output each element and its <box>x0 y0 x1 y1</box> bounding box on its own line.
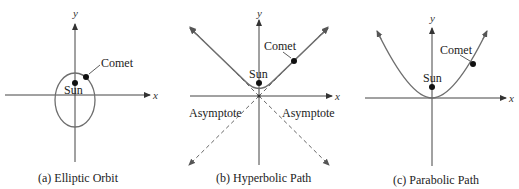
panel-elliptic-orbit: y x Sun Comet (a) Elliptic Orbit <box>5 7 158 185</box>
sun-label: Sun <box>249 67 268 81</box>
focus-dot <box>257 94 260 97</box>
hyperbola-arrow-left <box>190 28 196 34</box>
caption-hyperbolic-path: (b) Hyperbolic Path <box>216 171 311 185</box>
x-axis-label: x <box>334 90 340 102</box>
comet-leader-line <box>89 65 100 74</box>
y-axis-label: y <box>429 12 435 24</box>
caption-parabolic-path: (c) Parabolic Path <box>393 173 479 187</box>
hyperbola-arrow-right <box>322 28 328 34</box>
asymptote-label-right: Asymptote <box>282 106 335 120</box>
y-axis-label: y <box>72 7 78 19</box>
x-axis-label: x <box>508 92 514 104</box>
parabola-arrow-left <box>377 31 381 39</box>
comet-dot <box>83 74 89 80</box>
sun-label: Sun <box>423 71 442 85</box>
panel-parabolic-path: y x Sun Comet (c) Parabolic Path <box>365 12 514 187</box>
y-axis-label: y <box>256 7 262 19</box>
comet-orbits-figure: y x Sun Comet (a) Elliptic Orbit y x Sun… <box>0 0 519 189</box>
parabola-arrow-right <box>483 31 487 39</box>
x-axis-label: x <box>152 89 158 101</box>
comet-label: Comet <box>440 43 473 57</box>
comet-dot <box>291 58 297 64</box>
asymptote-label-left: Asymptote <box>189 106 242 120</box>
panel-hyperbolic-path: y x Sun Comet Asymptote Asymptote (b) Hy… <box>189 7 340 185</box>
comet-label: Comet <box>264 39 297 53</box>
comet-label: Comet <box>101 56 134 70</box>
sun-label: Sun <box>64 83 83 97</box>
comet-dot <box>470 61 476 67</box>
caption-elliptic-orbit: (a) Elliptic Orbit <box>38 171 119 185</box>
